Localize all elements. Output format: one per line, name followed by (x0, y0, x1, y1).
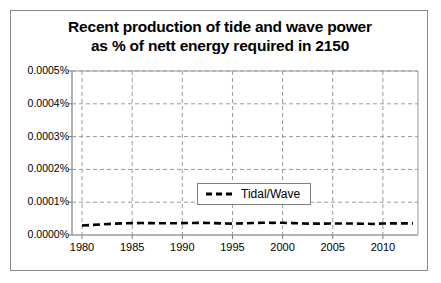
chart-frame: Recent production of tide and wave power… (10, 10, 428, 271)
x-axis-tick-label: 2010 (363, 241, 403, 253)
x-axis-tick-label: 2005 (313, 241, 353, 253)
x-axis-tick-label: 1995 (212, 241, 252, 253)
x-axis-tick-label: 1990 (162, 241, 202, 253)
y-axis-tick-label: 0.0003% (11, 131, 69, 142)
y-axis-tick-label: 0.0002% (11, 163, 69, 174)
gridlines (72, 71, 418, 235)
x-axis-tick-label: 1985 (112, 241, 152, 253)
legend-line-swatch (205, 189, 235, 199)
x-axis-tick-label: 1980 (62, 241, 102, 253)
y-axis-tick-label: 0.0005% (11, 65, 69, 76)
chart-canvas (11, 11, 429, 272)
plot-area: 0.0000%0.0001%0.0002%0.0003%0.0004%0.000… (11, 11, 429, 272)
y-axis-tick-label: 0.0000% (11, 229, 69, 240)
x-axis-tick-label: 2000 (263, 241, 303, 253)
legend-item-label: Tidal/Wave (241, 187, 300, 201)
chart-legend: Tidal/Wave (197, 183, 311, 205)
axis-lines (72, 71, 418, 235)
y-axis-tick-label: 0.0004% (11, 98, 69, 109)
y-axis-tick-label: 0.0001% (11, 196, 69, 207)
